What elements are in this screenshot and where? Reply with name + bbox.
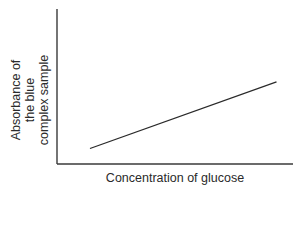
y-axis-label-line-1: Absorbance of bbox=[9, 55, 23, 145]
y-axis-label-line-2: the blue bbox=[23, 55, 37, 145]
x-axis-label: Concentration of glucose bbox=[57, 171, 293, 185]
y-axis-label-line-3: complex sample bbox=[37, 55, 51, 145]
y-axis-label: Absorbance of the blue complex sample bbox=[5, 45, 55, 155]
data-line bbox=[90, 82, 277, 149]
